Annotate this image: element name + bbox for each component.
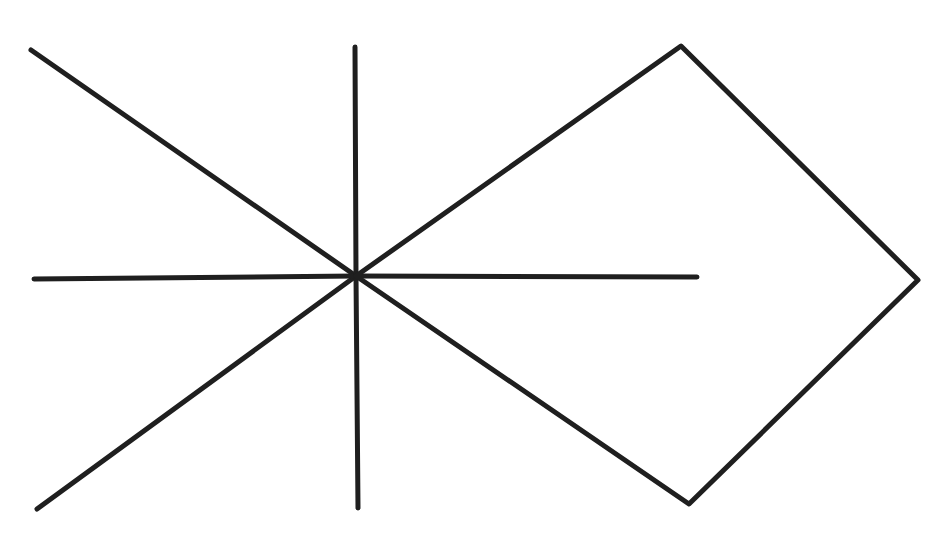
diagram-canvas	[0, 0, 950, 540]
ray-vertical-up	[355, 47, 356, 276]
ray-upper-left	[31, 50, 356, 276]
star-kite-diagram	[0, 0, 950, 540]
ray-horizontal-left	[34, 276, 356, 279]
ray-lower-left	[37, 276, 356, 509]
ray-horizontal-right	[356, 276, 697, 277]
ray-vertical-down	[356, 276, 358, 508]
